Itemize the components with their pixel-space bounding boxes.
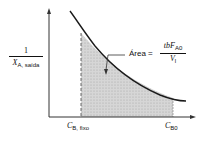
area-formula-numerator: tbFA0	[164, 41, 182, 53]
x-axis-arrow-icon	[190, 115, 196, 119]
y-axis-label-numerator: 1	[24, 46, 28, 56]
area-label: Área =	[129, 49, 153, 58]
x-tick-cb-fixo: CB, fixo	[67, 121, 89, 131]
levenspiel-plot-diagram: 1 XA, saída Área = tbFA0 Vl CB, fixo CB0	[0, 0, 203, 141]
y-axis-label: 1 XA, saída	[9, 46, 43, 71]
y-axis-arrow-icon	[47, 8, 51, 14]
area-formula: tbFA0 Vl	[160, 41, 186, 66]
y-axis-label-denominator: XA, saída	[13, 57, 40, 71]
x-tick-cb0: CB0	[165, 121, 178, 131]
area-formula-denominator: Vl	[170, 54, 176, 66]
